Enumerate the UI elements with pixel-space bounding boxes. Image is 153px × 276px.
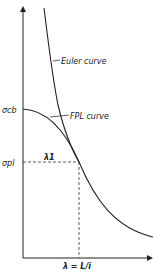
x-axis-label: λ = L/i (62, 262, 91, 271)
lambda1-label: λ1 (43, 153, 55, 162)
buckling-diagram: Euler curve FPL curve σcb σpl λ1 λ = L/i (0, 0, 153, 276)
fpl-leader (50, 115, 69, 117)
sigma-pl-label: σpl (2, 159, 15, 168)
euler-curve-label: Euler curve (61, 57, 107, 66)
sigma-cb-label: σcb (2, 106, 17, 115)
euler-leader (53, 60, 60, 61)
euler-curve (44, 8, 79, 162)
fpl-curve-label: FPL curve (70, 112, 109, 121)
fpl-curve (23, 109, 153, 237)
